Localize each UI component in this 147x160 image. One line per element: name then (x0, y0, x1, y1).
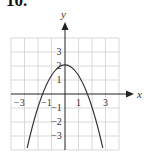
x-tick-label: −3 (14, 97, 25, 108)
y-tick-label: −2 (51, 116, 62, 127)
x-axis-arrow-icon (126, 91, 134, 98)
y-tick-label: 1 (57, 74, 62, 85)
x-tick-label: 1 (76, 97, 81, 108)
y-axis-arrow-icon (62, 22, 69, 30)
y-tick-label: −1 (51, 102, 62, 113)
parabola-chart: y x −3 −1 1 3 3 2 1 −1 −2 −3 (0, 0, 147, 160)
x-tick-label: 3 (103, 97, 108, 108)
y-tick-label: 2 (57, 60, 62, 71)
y-axis-label: y (60, 8, 66, 20)
axes (11, 27, 130, 150)
y-tick-label: −3 (51, 130, 62, 141)
x-axis-label: x (136, 88, 142, 100)
y-tick-label: 3 (57, 46, 62, 57)
